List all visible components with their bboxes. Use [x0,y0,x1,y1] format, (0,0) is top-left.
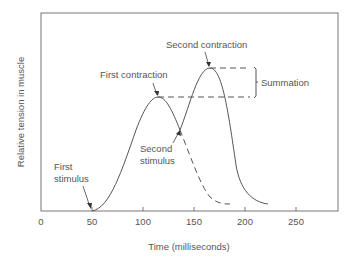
tick-100: 100 [135,216,151,227]
x-ticks [92,207,296,211]
second-contraction-curve [180,68,268,204]
second-stimulus-label-line1: Second [140,143,172,154]
second-contraction-label: Second contraction [166,39,247,50]
second-stimulus-label-line2: stimulus [140,155,175,166]
tick-250: 250 [288,216,304,227]
tick-200: 200 [237,216,253,227]
first-stimulus-label-line1: First [54,161,73,172]
twitch-summation-diagram: 0 50 100 150 200 250 Time (milliseconds)… [0,0,354,260]
first-contraction-label: First contraction [100,69,168,80]
first-contraction-curve [92,97,180,211]
tick-150: 150 [186,216,202,227]
summation-bracket [254,67,258,98]
first-stimulus-label-line2: stimulus [54,173,89,184]
tick-0: 0 [38,216,43,227]
x-axis-label: Time (milliseconds) [148,241,229,252]
y-axis-label: Relative tension in muscle [15,57,26,167]
summation-label: Summation [261,77,309,88]
x-tick-labels: 0 50 100 150 200 250 [38,216,304,227]
tick-50: 50 [87,216,98,227]
single-twitch-decay-dashed [180,130,230,204]
